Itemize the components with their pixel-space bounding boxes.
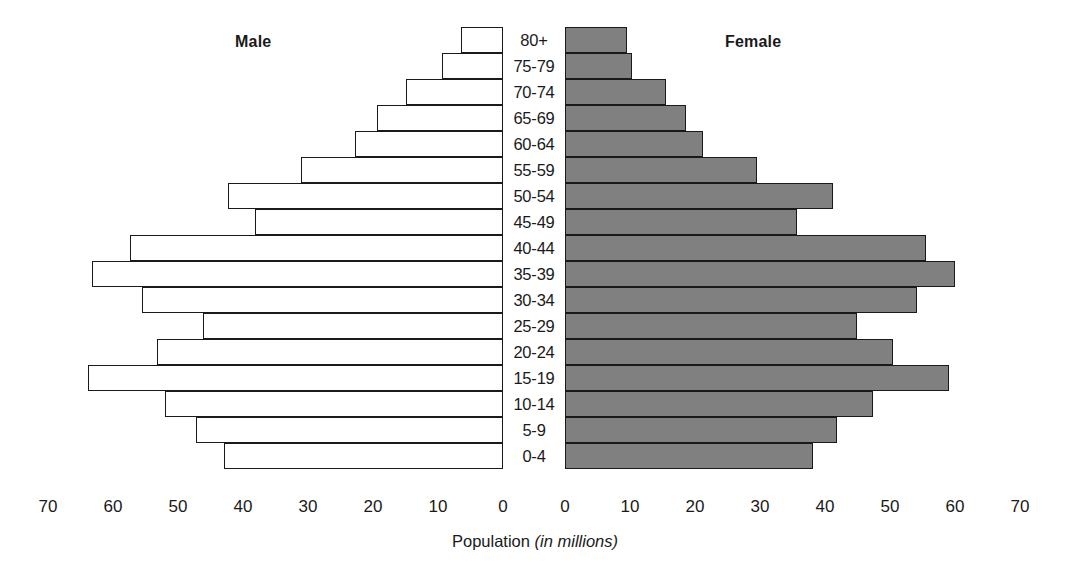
pyramid-row: 20-24 xyxy=(0,339,1070,365)
population-pyramid-chart: Male Female 80+75-7970-7465-6960-6455-59… xyxy=(0,0,1070,586)
female-bar xyxy=(565,105,686,131)
age-group-label: 15-19 xyxy=(503,365,565,391)
age-group-label: 65-69 xyxy=(503,105,565,131)
age-group-label: 35-39 xyxy=(503,261,565,287)
female-bar xyxy=(565,417,837,443)
male-bar xyxy=(301,157,503,183)
pyramid-row: 15-19 xyxy=(0,365,1070,391)
male-bar xyxy=(228,183,503,209)
female-bar xyxy=(565,183,833,209)
x-tick-left: 10 xyxy=(418,496,458,518)
male-bar xyxy=(442,53,503,79)
pyramid-row: 70-74 xyxy=(0,79,1070,105)
age-group-label: 50-54 xyxy=(503,183,565,209)
x-axis-tick-labels: 706050403020100010203040506070 xyxy=(0,496,1070,522)
male-bar xyxy=(196,417,503,443)
pyramid-row: 25-29 xyxy=(0,313,1070,339)
male-bar xyxy=(255,209,503,235)
male-bar xyxy=(406,79,503,105)
x-tick-right: 40 xyxy=(805,496,845,518)
female-bar xyxy=(565,365,949,391)
pyramid-row: 5-9 xyxy=(0,417,1070,443)
male-bar xyxy=(203,313,503,339)
female-bar xyxy=(565,287,917,313)
pyramid-row: 60-64 xyxy=(0,131,1070,157)
pyramid-row: 75-79 xyxy=(0,53,1070,79)
female-bar xyxy=(565,261,955,287)
x-tick-left: 60 xyxy=(93,496,133,518)
x-tick-right: 0 xyxy=(545,496,585,518)
x-tick-right: 10 xyxy=(610,496,650,518)
male-bar xyxy=(355,131,503,157)
male-bar xyxy=(461,27,503,53)
female-bar xyxy=(565,79,666,105)
male-bar xyxy=(157,339,503,365)
age-group-label: 75-79 xyxy=(503,53,565,79)
female-bar xyxy=(565,209,797,235)
pyramid-row: 45-49 xyxy=(0,209,1070,235)
pyramid-row: 30-34 xyxy=(0,287,1070,313)
age-group-label: 70-74 xyxy=(503,79,565,105)
female-bar xyxy=(565,27,627,53)
x-tick-left: 0 xyxy=(483,496,523,518)
age-group-label: 40-44 xyxy=(503,235,565,261)
x-axis-title-main: Population xyxy=(452,532,530,550)
x-axis-title: Population (in millions) xyxy=(0,532,1070,551)
x-axis-title-units: (in millions) xyxy=(535,532,618,550)
male-bar xyxy=(165,391,503,417)
age-group-label: 45-49 xyxy=(503,209,565,235)
male-bar xyxy=(130,235,503,261)
age-group-label: 0-4 xyxy=(503,443,565,469)
female-bar xyxy=(565,157,757,183)
female-bar xyxy=(565,339,893,365)
x-tick-left: 50 xyxy=(158,496,198,518)
pyramid-row: 35-39 xyxy=(0,261,1070,287)
male-bar xyxy=(142,287,503,313)
female-bar xyxy=(565,131,703,157)
x-tick-right: 70 xyxy=(1000,496,1040,518)
female-bar xyxy=(565,443,813,469)
age-group-label: 10-14 xyxy=(503,391,565,417)
age-group-label: 55-59 xyxy=(503,157,565,183)
male-bar xyxy=(377,105,503,131)
pyramid-row: 10-14 xyxy=(0,391,1070,417)
age-group-label: 30-34 xyxy=(503,287,565,313)
pyramid-plot-area: 80+75-7970-7465-6960-6455-5950-5445-4940… xyxy=(0,27,1070,469)
female-bar xyxy=(565,53,632,79)
male-bar xyxy=(224,443,503,469)
pyramid-row: 55-59 xyxy=(0,157,1070,183)
x-tick-right: 20 xyxy=(675,496,715,518)
male-bar xyxy=(92,261,503,287)
x-tick-left: 20 xyxy=(353,496,393,518)
age-group-label: 5-9 xyxy=(503,417,565,443)
female-bar xyxy=(565,235,926,261)
x-tick-right: 60 xyxy=(935,496,975,518)
age-group-label: 80+ xyxy=(503,27,565,53)
x-tick-left: 30 xyxy=(288,496,328,518)
pyramid-row: 80+ xyxy=(0,27,1070,53)
female-bar xyxy=(565,313,857,339)
pyramid-row: 0-4 xyxy=(0,443,1070,469)
x-tick-right: 50 xyxy=(870,496,910,518)
female-bar xyxy=(565,391,873,417)
age-group-label: 60-64 xyxy=(503,131,565,157)
x-tick-left: 70 xyxy=(28,496,68,518)
x-tick-left: 40 xyxy=(223,496,263,518)
pyramid-row: 40-44 xyxy=(0,235,1070,261)
pyramid-row: 65-69 xyxy=(0,105,1070,131)
male-bar xyxy=(88,365,503,391)
x-tick-right: 30 xyxy=(740,496,780,518)
pyramid-row: 50-54 xyxy=(0,183,1070,209)
age-group-label: 25-29 xyxy=(503,313,565,339)
age-group-label: 20-24 xyxy=(503,339,565,365)
